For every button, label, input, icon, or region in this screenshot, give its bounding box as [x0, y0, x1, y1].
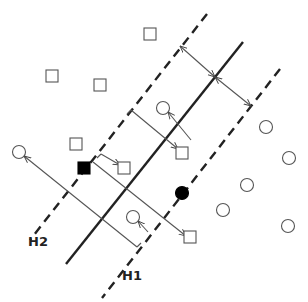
circle-point [127, 211, 140, 224]
arrow-tick [137, 243, 141, 247]
circle-point [282, 220, 295, 233]
circle-point [241, 179, 254, 192]
circle-point [157, 102, 170, 115]
distance-arrow [101, 154, 120, 165]
distance-arrow [180, 46, 215, 77]
lines-layer [30, 14, 280, 298]
label-h2: H2 [28, 234, 48, 249]
square-point [144, 28, 156, 40]
support-vector-circle [176, 187, 189, 200]
svm-diagram [0, 0, 308, 302]
circle-point [13, 146, 26, 159]
circle-point [260, 121, 273, 134]
square-point [46, 70, 58, 82]
square-point [176, 147, 188, 159]
circle-point [283, 152, 296, 165]
square-point [94, 79, 106, 91]
square-point [70, 138, 82, 150]
label-h1: H1 [122, 268, 142, 283]
support-vector-square [78, 162, 90, 174]
distance-arrow [138, 221, 148, 232]
distance-arrow [168, 112, 191, 140]
distance-arrow [215, 77, 251, 106]
square-point [184, 231, 196, 243]
circle-point [217, 204, 230, 217]
square-point [118, 162, 130, 174]
hyperplane-line [66, 42, 243, 264]
arrow-tick [97, 154, 101, 158]
